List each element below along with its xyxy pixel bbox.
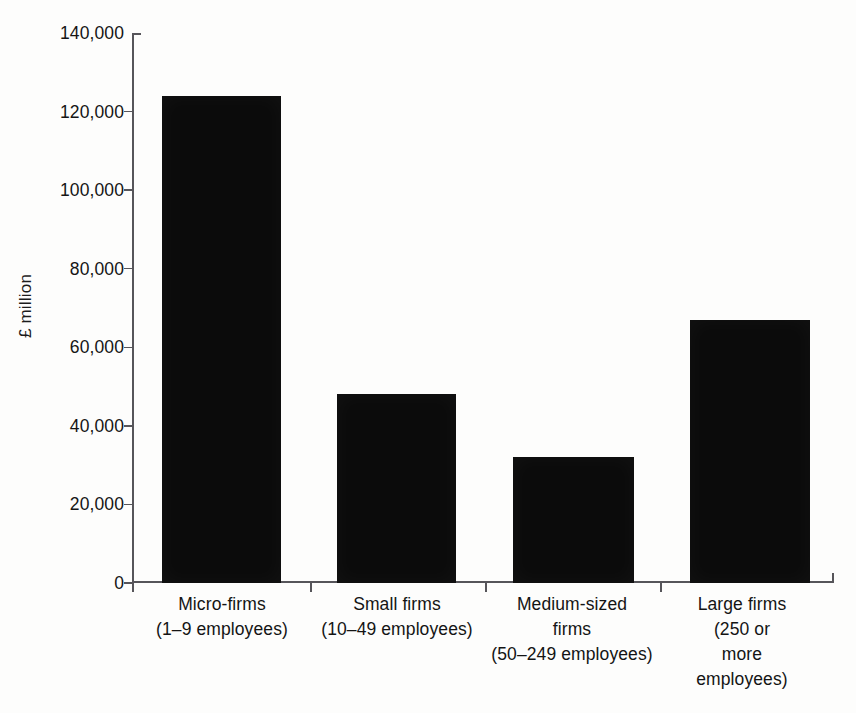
- bar-chart-figure: £ million 020,00040,00060,00080,000100,0…: [0, 0, 856, 713]
- x-axis-tick-mark: [132, 583, 134, 592]
- category-label-line: (250 or: [642, 617, 842, 642]
- x-axis-tick-mark: [660, 583, 662, 592]
- x-axis-tick-mark: [310, 583, 312, 592]
- y-axis-tick-mark: [124, 268, 132, 270]
- bar: [337, 394, 456, 583]
- bar: [162, 96, 281, 583]
- plot-area: [132, 33, 833, 583]
- y-axis-tick-labels: 020,00040,00060,00080,000100,000120,0001…: [14, 0, 124, 713]
- bar: [513, 457, 634, 583]
- x-axis-category-label: Large firms(250 ormoreemployees): [642, 592, 842, 692]
- y-axis-tick-mark: [124, 582, 132, 584]
- y-axis-tick-mark: [124, 111, 132, 113]
- category-label-line: more: [642, 642, 842, 667]
- x-axis-tick-mark: [485, 583, 487, 592]
- y-axis-tick-label: 40,000: [20, 415, 124, 436]
- y-axis-tick-label: 0: [20, 573, 124, 594]
- x-axis-tick-mark: [832, 573, 834, 583]
- y-axis-tick-label: 140,000: [20, 23, 124, 44]
- y-axis-tick-label: 20,000: [20, 494, 124, 515]
- y-axis-tick-mark: [124, 504, 132, 506]
- category-label-line: Large firms: [642, 592, 842, 617]
- y-axis-top-cap: [132, 33, 141, 35]
- y-axis-tick-label: 80,000: [20, 258, 124, 279]
- x-axis-category-labels: Micro-firms(1–9 employees)Small firms(10…: [132, 592, 856, 713]
- y-axis-line: [132, 33, 134, 583]
- y-axis-tick-label: 100,000: [20, 180, 124, 201]
- y-axis-tick-label: 120,000: [20, 101, 124, 122]
- y-axis-tick-mark: [124, 189, 132, 191]
- y-axis-tick-mark: [124, 425, 132, 427]
- y-axis-tick-mark: [124, 347, 132, 349]
- bar: [690, 320, 810, 583]
- y-axis-tick-label: 60,000: [20, 337, 124, 358]
- category-label-line: employees): [642, 667, 842, 692]
